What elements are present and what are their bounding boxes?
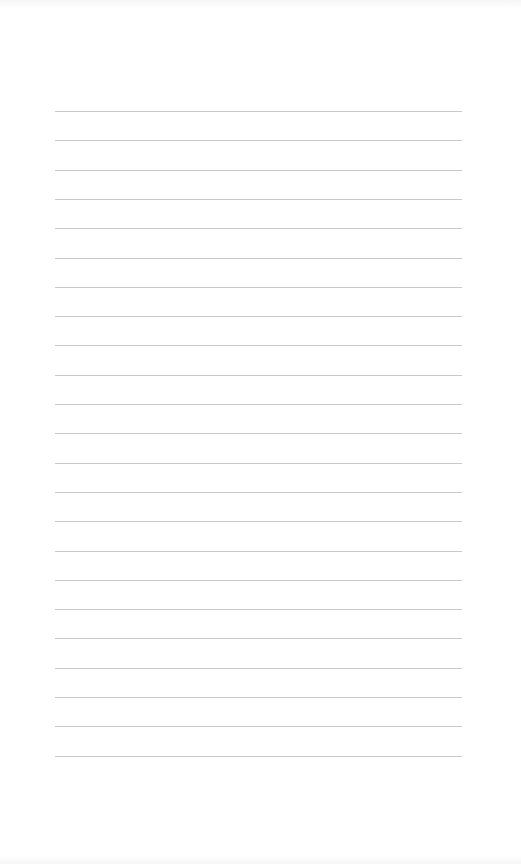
- ruled-line: [55, 375, 462, 376]
- ruled-line: [55, 111, 462, 112]
- page-bottom-edge: [0, 856, 521, 864]
- ruled-line: [55, 726, 462, 727]
- ruled-line: [55, 551, 462, 552]
- ruled-line: [55, 756, 462, 757]
- ruled-lines: [55, 0, 462, 864]
- ruled-line: [55, 404, 462, 405]
- ruled-line: [55, 345, 462, 346]
- ruled-line: [55, 609, 462, 610]
- ruled-line: [55, 258, 462, 259]
- ruled-line: [55, 287, 462, 288]
- ruled-line: [55, 433, 462, 434]
- ruled-line: [55, 199, 462, 200]
- ruled-line: [55, 521, 462, 522]
- ruled-line: [55, 492, 462, 493]
- ruled-line: [55, 228, 462, 229]
- ruled-line: [55, 140, 462, 141]
- ruled-line: [55, 668, 462, 669]
- ruled-line: [55, 316, 462, 317]
- ruled-line: [55, 170, 462, 171]
- ruled-line: [55, 463, 462, 464]
- ruled-line: [55, 697, 462, 698]
- ruled-line: [55, 580, 462, 581]
- ruled-line: [55, 638, 462, 639]
- lined-paper-page: [0, 0, 521, 864]
